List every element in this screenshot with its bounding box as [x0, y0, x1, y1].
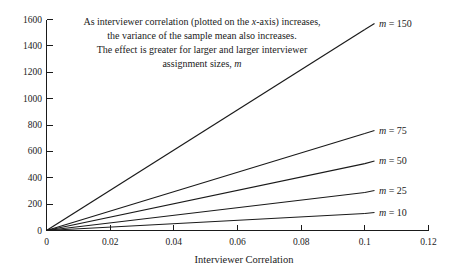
chart-page: 1600 1400 1200 1000 800 600 400 200 0 0 … — [0, 0, 460, 271]
leader-line-m25 — [365, 191, 375, 193]
annotation-line-4: assignment sizes, m — [162, 58, 241, 69]
y-tick-label-400: 400 — [28, 173, 43, 183]
x-tick-label-0.1: 0.1 — [359, 237, 371, 247]
x-tick-label-0.08: 0.08 — [293, 237, 310, 247]
annotation-line-3: The effect is greater for larger and lar… — [97, 44, 308, 55]
leader-line-m150 — [365, 24, 375, 30]
y-tick-label-200: 200 — [28, 199, 43, 209]
series-labels: m = 150 m = 75 m = 50 m = 25 m = 10 — [379, 18, 412, 218]
leader-line-m75 — [365, 131, 375, 134]
y-tick-label-0: 0 — [37, 226, 42, 236]
leader-line-m50 — [365, 161, 375, 164]
series-label-m10: m = 10 — [379, 207, 407, 218]
y-axis-ticks — [47, 20, 53, 231]
y-tick-label-1400: 1400 — [23, 41, 42, 51]
x-axis-title: Interviewer Correlation — [195, 254, 295, 265]
leader-line-m10 — [365, 213, 375, 214]
y-axis-tick-labels: 1600 1400 1200 1000 800 600 400 200 0 — [23, 15, 42, 236]
series-label-m25: m = 25 — [379, 185, 407, 196]
y-tick-label-1200: 1200 — [23, 67, 42, 77]
annotation-line-2: the variance of the sample mean also inc… — [107, 30, 296, 41]
series-label-m50: m = 50 — [379, 155, 407, 166]
y-tick-label-600: 600 — [28, 146, 43, 156]
chart-annotation: As interviewer correlation (plotted on t… — [83, 16, 320, 69]
series-leader-lines — [365, 24, 375, 214]
x-tick-label-0.02: 0.02 — [102, 237, 119, 247]
y-tick-label-1000: 1000 — [23, 94, 42, 104]
series-line-m50 — [47, 164, 365, 231]
series-line-m25 — [47, 193, 365, 231]
x-axis-tick-labels: 0 0.02 0.04 0.06 0.08 0.1 0.12 — [44, 237, 437, 247]
series-label-m75: m = 75 — [379, 125, 407, 136]
x-tick-label-0.06: 0.06 — [229, 237, 246, 247]
annotation-line-1: As interviewer correlation (plotted on t… — [83, 16, 320, 28]
x-tick-label-0.04: 0.04 — [165, 237, 182, 247]
y-tick-label-800: 800 — [28, 120, 43, 130]
x-tick-label-0.12: 0.12 — [420, 237, 437, 247]
series-label-m150: m = 150 — [379, 18, 412, 29]
x-tick-label-0: 0 — [44, 237, 49, 247]
interviewer-correlation-line-chart: 1600 1400 1200 1000 800 600 400 200 0 0 … — [0, 0, 460, 271]
y-tick-label-1600: 1600 — [23, 15, 42, 25]
